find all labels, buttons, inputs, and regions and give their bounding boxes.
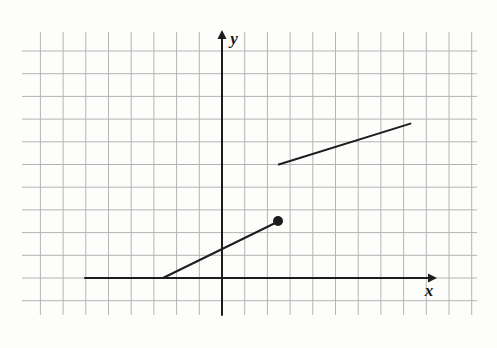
marker-layer [273,216,283,226]
figure-background [0,0,497,348]
graph-canvas: x y [0,0,497,348]
graph-figure: x y [0,0,497,348]
y-axis-label: y [228,29,238,48]
point-marker-closed-dot [273,216,283,226]
x-axis-label: x [424,281,434,300]
